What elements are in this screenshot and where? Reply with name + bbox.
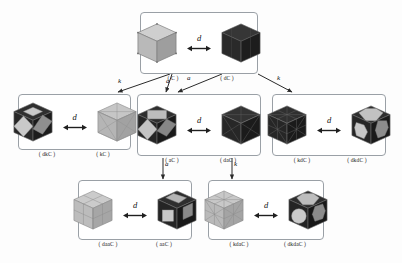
cube-aaC — [151, 184, 203, 236]
cube-pair-bot-left: d — [79, 181, 191, 239]
cube-pair-mid-center: d — [138, 95, 260, 155]
cube-dkdaC — [282, 184, 334, 236]
caption-C: ( C ) — [149, 75, 197, 81]
dual-link-bot-right: d — [253, 195, 279, 225]
dual-link-mid-left: d — [62, 107, 88, 137]
double-arrow-mid-left — [63, 123, 87, 132]
caption-kC: ( kC ) — [79, 151, 127, 157]
double-arrow-top — [187, 44, 211, 53]
dual-label-bot-left: d — [133, 201, 137, 210]
caption-aC: ( aC ) — [148, 157, 196, 163]
double-arrow-bot-right — [254, 211, 278, 220]
caption-kdaC: ( kdaC ) — [213, 241, 265, 247]
double-arrow-mid-right — [317, 126, 341, 135]
panel-top: d ( C ) ( dC ) — [140, 12, 258, 74]
figure-canvas: k a a k a k d — [0, 0, 402, 263]
edge-label-k-left: k — [118, 77, 121, 85]
cube-pair-top: d — [141, 13, 257, 73]
caption-dC: ( dC ) — [203, 75, 251, 81]
dual-label-bot-right: d — [264, 201, 268, 210]
panel-bot-right: d ( kdaC ) ( dkdaC ) — [208, 180, 324, 240]
cube-pair-mid-left: d — [19, 95, 130, 149]
dual-link-mid-right: d — [316, 110, 342, 140]
panel-bot-left: d ( daaC ) ( aaC ) — [78, 180, 192, 240]
cube-dC — [215, 17, 267, 69]
double-arrow-mid-center — [187, 126, 211, 135]
edge-label-k-right: k — [277, 74, 280, 82]
caption-dkC: ( dkC ) — [23, 151, 71, 157]
cube-pair-mid-right: d — [273, 95, 385, 155]
panel-mid-left: d — [18, 94, 131, 150]
caption-kdC: ( kdC ) — [278, 157, 326, 163]
cube-daC — [215, 99, 267, 151]
cube-dkdC — [345, 99, 397, 151]
caption-aaC: ( aaC ) — [139, 241, 189, 247]
dual-link-bot-left: d — [122, 195, 148, 225]
cube-C — [131, 17, 183, 69]
cube-kdC — [261, 99, 313, 151]
dual-label-mid-center: d — [197, 116, 201, 125]
dual-label-top: d — [197, 34, 201, 43]
caption-dkdC: ( dkdC ) — [333, 157, 381, 163]
dual-label-mid-right: d — [327, 116, 331, 125]
dual-link-mid-center: d — [186, 110, 212, 140]
panel-mid-center: d — [137, 94, 261, 156]
caption-daaC: ( daaC ) — [83, 241, 133, 247]
cube-daaC — [67, 184, 119, 236]
caption-dkdaC: ( dkdaC ) — [269, 241, 321, 247]
caption-daC: ( daC ) — [204, 157, 252, 163]
cube-pair-bot-right: d — [209, 181, 323, 239]
panel-mid-right: d ( kdC ) ( dkdC ) — [272, 94, 386, 156]
dual-link-top: d — [186, 28, 212, 58]
cube-aC — [131, 99, 183, 151]
double-arrow-bot-left — [123, 211, 147, 220]
cube-kdaC — [198, 184, 250, 236]
cube-dkC — [7, 96, 59, 148]
dual-label-mid-left: d — [72, 113, 76, 122]
